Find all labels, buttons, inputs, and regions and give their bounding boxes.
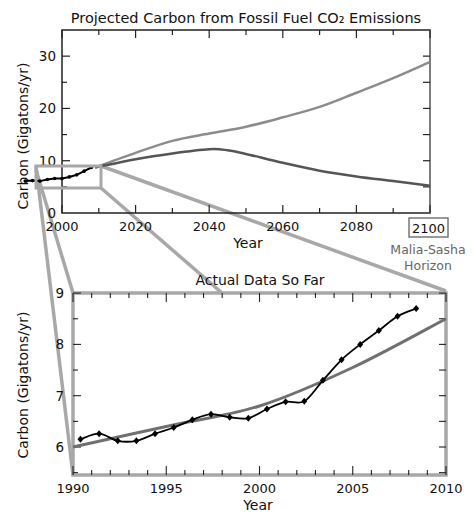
top-series (23, 62, 430, 188)
data-point-marker (152, 430, 158, 437)
top-y-tick-label: 20 (39, 100, 56, 116)
bottom-plot-frame (73, 293, 446, 475)
top-x-tick-label: 2000 (45, 219, 78, 234)
data-point-marker (133, 437, 139, 444)
bottom-series (73, 305, 446, 447)
data-point-marker (283, 398, 289, 405)
top-x-axis-label: Year (232, 235, 263, 251)
top-series-line (95, 62, 430, 168)
top-plot-frame (62, 30, 430, 213)
top-x-tick-label: 2040 (193, 219, 226, 234)
top-x-tick-label: 2060 (266, 219, 299, 234)
bottom-axes: 678919901995200020052010 (55, 285, 462, 496)
data-point-marker (245, 415, 251, 422)
bottom-x-tick-label: 1995 (150, 481, 183, 496)
bottom-x-axis-label: Year (242, 497, 273, 513)
top-x-tick-label: 2020 (119, 219, 152, 234)
bottom-y-axis-label: Carbon (Gigatons/yr) (15, 312, 31, 459)
bottom-x-tick-label: 2000 (243, 481, 276, 496)
bottom-y-tick-label: 8 (55, 336, 64, 352)
top-axes: 010203020002020204020602080 (39, 30, 430, 234)
data-point-marker (413, 305, 419, 312)
horizon-annotation: 2100 Malia-Sasha Horizon (390, 218, 465, 273)
bottom-x-tick-label: 1990 (56, 481, 89, 496)
bottom-chart: Actual Data So Far Carbon (Gigatons/yr) … (15, 272, 463, 513)
bottom-y-tick-label: 6 (55, 439, 64, 455)
data-point-marker (395, 313, 401, 320)
horizon-label-line2: Horizon (404, 258, 452, 273)
bottom-x-tick-label: 2005 (336, 481, 369, 496)
bottom-y-tick-label: 9 (55, 285, 64, 301)
trend-line (73, 319, 446, 447)
data-point-marker (77, 436, 83, 443)
bottom-chart-title: Actual Data So Far (195, 272, 324, 288)
bottom-y-tick-label: 7 (55, 388, 64, 404)
top-chart: Projected Carbon from Fossil Fuel CO₂ Em… (15, 10, 466, 273)
bottom-x-tick-label: 2010 (429, 481, 462, 496)
horizon-label-line1: Malia-Sasha (390, 242, 465, 257)
top-y-axis-label: Carbon (Gigatons/yr) (15, 63, 31, 210)
top-chart-title: Projected Carbon from Fossil Fuel CO₂ Em… (71, 10, 421, 26)
horizon-boxed-tick: 2100 (412, 221, 445, 236)
data-point-marker (264, 406, 270, 413)
top-x-tick-label: 2080 (340, 219, 373, 234)
figure: Projected Carbon from Fossil Fuel CO₂ Em… (0, 0, 473, 520)
top-y-tick-label: 30 (39, 48, 56, 64)
data-point-marker (96, 430, 102, 437)
